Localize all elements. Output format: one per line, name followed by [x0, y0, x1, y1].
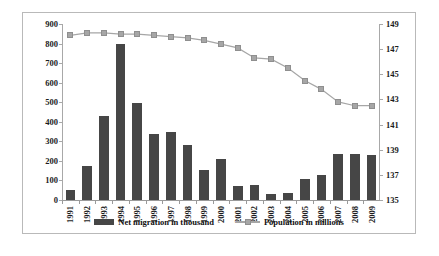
left-tick-mark-300: [59, 141, 62, 142]
left-tick-label-200: 200: [45, 156, 58, 166]
right-tick-label-147: 147: [386, 44, 399, 54]
chart-frame: 0100200300400500600700800900 13513713914…: [22, 12, 416, 234]
bar-1995: [132, 103, 142, 200]
x-tick-mark-1999: [196, 201, 197, 204]
x-tick-mark-1992: [79, 201, 80, 204]
bar-2002: [250, 185, 260, 200]
x-tick-mark-1998: [179, 201, 180, 204]
right-tick-label-135: 135: [386, 195, 399, 205]
left-tick-mark-700: [59, 63, 62, 64]
left-tick-mark-200: [59, 161, 62, 162]
right-tick-mark-145: [380, 74, 383, 75]
bar-2009: [367, 155, 377, 200]
chart-legend: Net migration in thousand Population in …: [23, 217, 415, 227]
bar-1996: [149, 134, 159, 200]
right-tick-mark-139: [380, 150, 383, 151]
x-tick-mark-2005: [296, 201, 297, 204]
marker-2002: [251, 55, 257, 61]
bar-2007: [333, 154, 343, 200]
marker-2009: [369, 103, 375, 109]
bar-2005: [300, 179, 310, 200]
marker-2000: [218, 41, 224, 47]
right-tick-mark-143: [380, 99, 383, 100]
x-tick-mark-2007: [330, 201, 331, 204]
x-tick-mark-1997: [162, 201, 163, 204]
left-tick-label-500: 500: [45, 97, 58, 107]
marker-1997: [168, 34, 174, 40]
x-tick-mark-2004: [280, 201, 281, 204]
right-tick-mark-149: [380, 24, 383, 25]
marker-1995: [134, 31, 140, 37]
bar-1998: [183, 145, 193, 200]
left-tick-label-300: 300: [45, 136, 58, 146]
left-axis-line: [62, 24, 63, 201]
x-tick-mark-2009: [363, 201, 364, 204]
marker-1996: [151, 32, 157, 38]
left-tick-label-700: 700: [45, 58, 58, 68]
left-tick-mark-400: [59, 122, 62, 123]
bar-swatch-icon: [94, 219, 114, 225]
right-tick-label-139: 139: [386, 145, 399, 155]
x-tick-mark-2006: [313, 201, 314, 204]
bar-1994: [116, 44, 126, 200]
x-tick-mark-1995: [129, 201, 130, 204]
marker-1992: [84, 30, 90, 36]
bar-2003: [266, 194, 276, 200]
left-tick-label-900: 900: [45, 19, 58, 29]
x-tick-mark-1994: [112, 201, 113, 204]
right-tick-label-137: 137: [386, 170, 399, 180]
left-tick-mark-500: [59, 102, 62, 103]
left-tick-mark-800: [59, 44, 62, 45]
marker-2008: [352, 103, 358, 109]
x-tick-mark-2002: [246, 201, 247, 204]
x-tick-mark-2001: [229, 201, 230, 204]
left-tick-mark-100: [59, 180, 62, 181]
bar-2004: [283, 193, 293, 200]
legend-label-net-migration: Net migration in thousand: [118, 217, 214, 227]
left-tick-label-400: 400: [45, 117, 58, 127]
marker-1999: [201, 37, 207, 43]
plot-area: 0100200300400500600700800900 13513713914…: [62, 24, 380, 201]
left-tick-mark-900: [59, 24, 62, 25]
x-tick-mark-2000: [213, 201, 214, 204]
bar-2001: [233, 186, 243, 200]
marker-1991: [67, 32, 73, 38]
x-tick-mark-2003: [263, 201, 264, 204]
bar-1992: [82, 166, 92, 200]
right-tick-label-143: 143: [386, 94, 399, 104]
x-tick-mark-1991: [62, 201, 63, 204]
bar-1999: [199, 170, 209, 200]
legend-label-population: Population in millions: [264, 217, 344, 227]
left-tick-label-600: 600: [45, 78, 58, 88]
bar-1997: [166, 132, 176, 200]
marker-1993: [101, 30, 107, 36]
marker-2005: [302, 78, 308, 84]
marker-2006: [318, 86, 324, 92]
right-tick-mark-135: [380, 200, 383, 201]
left-tick-label-800: 800: [45, 39, 58, 49]
bar-1991: [66, 190, 76, 200]
line-square-swatch-icon: [236, 218, 260, 226]
marker-2004: [285, 65, 291, 71]
marker-2007: [335, 99, 341, 105]
x-tick-mark-1993: [95, 201, 96, 204]
right-tick-mark-147: [380, 49, 383, 50]
right-tick-label-145: 145: [386, 69, 399, 79]
legend-item-net-migration: Net migration in thousand: [94, 217, 214, 227]
right-tick-mark-141: [380, 125, 383, 126]
legend-item-population: Population in millions: [236, 217, 344, 227]
marker-1998: [185, 35, 191, 41]
marker-2001: [235, 45, 241, 51]
bar-2006: [317, 175, 327, 200]
bar-1993: [99, 116, 109, 200]
bar-2000: [216, 159, 226, 200]
bar-2008: [350, 154, 360, 200]
left-tick-label-0: 0: [54, 195, 58, 205]
x-tick-mark-2008: [347, 201, 348, 204]
left-tick-label-100: 100: [45, 175, 58, 185]
right-tick-mark-137: [380, 175, 383, 176]
x-tick-mark-1996: [146, 201, 147, 204]
right-tick-label-141: 141: [386, 120, 399, 130]
left-tick-mark-600: [59, 83, 62, 84]
marker-2003: [268, 56, 274, 62]
